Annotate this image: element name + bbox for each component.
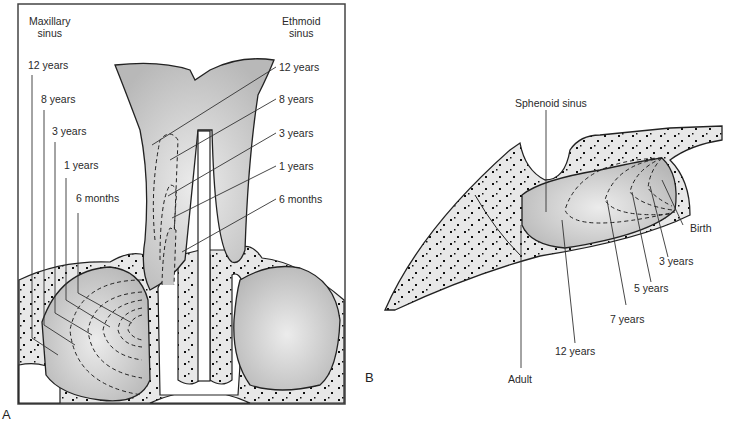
sinus-development-illustration: [0, 0, 734, 429]
maxillary-header-line1: Maxillary: [29, 15, 70, 27]
maxillary-label-12-years: 12 years: [28, 59, 68, 71]
maxillary-label-8-years: 8 years: [41, 93, 75, 105]
ethmoid-sinus-header: Ethmoid sinus: [282, 15, 321, 39]
sphenoid-label-adult: Adult: [508, 373, 532, 385]
sphenoid-sinus-title: Sphenoid sinus: [515, 97, 587, 109]
maxillary-label-6-months: 6 months: [76, 192, 119, 204]
ethmoid-header-line2: sinus: [282, 27, 321, 39]
ethmoid-label-3-years: 3 years: [279, 127, 313, 139]
maxillary-label-3-years: 3 years: [52, 125, 86, 137]
ethmoid-label-8-years: 8 years: [279, 93, 313, 105]
ethmoid-label-6-months: 6 months: [279, 193, 322, 205]
maxillary-header-line2: sinus: [29, 27, 70, 39]
panel-a-letter: A: [2, 407, 11, 422]
ethmoid-label-1-years: 1 years: [279, 160, 313, 172]
maxillary-label-1-years: 1 years: [64, 159, 98, 171]
sphenoid-label-12-years: 12 years: [555, 345, 595, 357]
sphenoid-label-birth: Birth: [690, 222, 712, 234]
panel-b-letter: B: [365, 370, 374, 385]
ethmoid-header-line1: Ethmoid: [282, 15, 321, 27]
maxillary-sinus-header: Maxillary sinus: [29, 15, 70, 39]
sphenoid-label-5-years: 5 years: [634, 282, 668, 294]
sphenoid-label-7-years: 7 years: [610, 313, 644, 325]
ethmoid-label-12-years: 12 years: [279, 61, 319, 73]
sphenoid-label-3-years: 3 years: [659, 255, 693, 267]
